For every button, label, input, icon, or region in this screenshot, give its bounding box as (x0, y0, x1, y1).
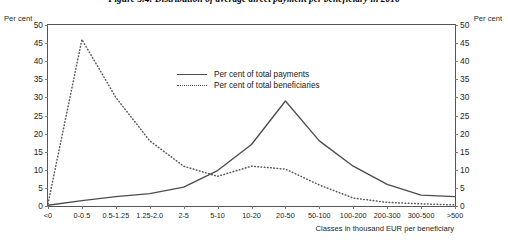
y-axis-right-tick-25: 25 (460, 111, 484, 121)
y-axis-right-tick-5: 5 (460, 183, 484, 193)
x-axis-tick-label-5: 5-10 (210, 211, 225, 221)
y-axis-right-tick-10: 10 (460, 165, 484, 175)
y-axis-left-tick-40: 40 (19, 56, 43, 66)
y-axis-right-tickmark-5 (455, 188, 458, 189)
y-axis-left-tick-45: 45 (19, 38, 43, 48)
x-axis-tickmark-8 (319, 206, 320, 209)
legend-label-beneficiaries: Per cent of total beneficiaries (214, 80, 320, 91)
series-canvas (48, 25, 455, 206)
y-axis-right-tickmark-40 (455, 61, 458, 62)
y-axis-right-tickmark-50 (455, 25, 458, 26)
y-axis-left-tick-5: 5 (19, 183, 43, 193)
y-axis-right-tick-45: 45 (460, 38, 484, 48)
legend-item-beneficiaries: Per cent of total beneficiaries (177, 80, 320, 91)
y-axis-right-tickmark-45 (455, 43, 458, 44)
y-axis-right-tickmark-30 (455, 97, 458, 98)
x-axis-tickmark-0 (48, 206, 49, 209)
x-axis-tick-label-7: 20-50 (276, 211, 295, 221)
y-axis-right-tick-40: 40 (460, 56, 484, 66)
y-axis-left-tick-50: 50 (19, 20, 43, 30)
series-line-payments (48, 101, 455, 205)
y-axis-right-tickmark-10 (455, 170, 458, 171)
y-axis-right-tick-30: 30 (460, 92, 484, 102)
y-axis-left-tick-15: 15 (19, 147, 43, 157)
legend-label-payments: Per cent of total payments (214, 69, 309, 80)
y-axis-right-tick-50: 50 (460, 20, 484, 30)
x-axis-tick-label-1: 0-0.5 (74, 211, 91, 221)
chart-legend: Per cent of total payments Per cent of t… (177, 69, 320, 91)
x-axis-caption: Classes in thousand EUR per beneficiary (47, 224, 456, 233)
x-axis-tick-label-11: 300-500 (408, 211, 435, 221)
y-axis-right-tickmark-35 (455, 79, 458, 80)
chart-lines (48, 25, 455, 206)
x-axis-tickmark-6 (252, 206, 253, 209)
y-axis-right-tick-0: 0 (460, 201, 484, 211)
legend-key-dotted-line-icon (177, 81, 207, 90)
x-axis-tick-label-0: <0 (44, 211, 52, 221)
x-axis-tick-label-3: 1.25-2.0 (136, 211, 163, 221)
x-axis-tickmark-9 (353, 206, 354, 209)
x-axis-tickmark-5 (218, 206, 219, 209)
x-axis-tickmark-2 (116, 206, 117, 209)
legend-key-solid-line-icon (177, 70, 207, 79)
series-line-beneficiaries (48, 39, 455, 204)
x-axis-tick-label-6: 10-20 (242, 211, 261, 221)
x-axis-tick-label-9: 100-200 (340, 211, 367, 221)
x-axis-tick-label-12: >500 (447, 211, 463, 221)
figure-container: Figure 3.4: Distribution of average dire… (0, 0, 508, 243)
y-axis-right-tick-15: 15 (460, 147, 484, 157)
y-axis-right-tickmark-15 (455, 152, 458, 153)
y-axis-right-tick-20: 20 (460, 129, 484, 139)
y-axis-right-tickmark-25 (455, 116, 458, 117)
legend-item-payments: Per cent of total payments (177, 69, 320, 80)
x-axis-tick-label-4: 2-5 (178, 211, 189, 221)
x-axis-tickmark-1 (82, 206, 83, 209)
y-axis-left-tick-35: 35 (19, 74, 43, 84)
x-axis-tickmark-3 (150, 206, 151, 209)
x-axis-tick-label-2: 0.5-1.25 (102, 211, 129, 221)
x-axis-tick-label-10: 200-300 (374, 211, 401, 221)
x-axis-tickmark-10 (387, 206, 388, 209)
y-axis-right-tickmark-20 (455, 134, 458, 135)
y-axis-left-tick-30: 30 (19, 92, 43, 102)
x-axis-tick-label-8: 50-100 (308, 211, 331, 221)
y-axis-right-tick-35: 35 (460, 74, 484, 84)
x-axis-tickmark-4 (184, 206, 185, 209)
x-axis-tickmark-12 (455, 206, 456, 209)
y-axis-left-tick-20: 20 (19, 129, 43, 139)
x-axis-tickmark-7 (285, 206, 286, 209)
y-axis-left-tick-25: 25 (19, 111, 43, 121)
y-axis-left-tick-10: 10 (19, 165, 43, 175)
plot-area: 05101520253035404550 0510152025303540455… (47, 24, 456, 207)
figure-title: Figure 3.4: Distribution of average dire… (0, 0, 508, 5)
y-axis-left-tick-0: 0 (19, 201, 43, 211)
x-axis-tickmark-11 (421, 206, 422, 209)
